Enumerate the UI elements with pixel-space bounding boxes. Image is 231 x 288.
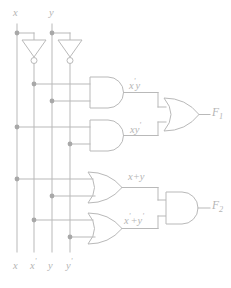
junction-y-to-inverter bbox=[50, 31, 55, 36]
output-f1-sub: 1 bbox=[219, 112, 223, 121]
or-gate-2-body bbox=[88, 213, 122, 244]
or-gate-output-f1 bbox=[164, 98, 210, 131]
rail-label-y-base: y bbox=[48, 260, 53, 271]
and-gate-2-body bbox=[90, 120, 123, 151]
rail-label-x-base: x bbox=[13, 260, 18, 271]
output-label-f2: F2 bbox=[212, 200, 223, 215]
expr-and1-tail: y bbox=[135, 80, 140, 91]
output-label-f1: F1 bbox=[212, 107, 223, 122]
junction-x-and2 bbox=[15, 125, 20, 130]
and-gate-f2-body bbox=[166, 192, 198, 224]
and-gate-1-body bbox=[90, 77, 124, 108]
inverter-x-bubble bbox=[31, 58, 37, 64]
junction-xprime-and1 bbox=[32, 82, 37, 87]
input-rails bbox=[17, 24, 70, 252]
or-gate-1-body bbox=[88, 172, 122, 203]
output-f2-sub: 2 bbox=[219, 205, 223, 214]
junction-y-and1 bbox=[50, 99, 55, 104]
junction-xprime-or2 bbox=[32, 218, 37, 223]
f2-routing-wires bbox=[158, 188, 166, 229]
junction-y-or1 bbox=[50, 194, 55, 199]
junction-yprime-and2 bbox=[68, 142, 73, 147]
inverter-x bbox=[15, 31, 46, 64]
expr-label-or2: x'+y' bbox=[124, 213, 144, 226]
expr-label-or1: x+y bbox=[128, 172, 144, 183]
rail-label-y-prime: y' bbox=[66, 258, 72, 271]
and-gate-output-f2 bbox=[166, 192, 210, 224]
output-f2-base: F bbox=[212, 199, 219, 211]
expr-and2-prime: ' bbox=[139, 121, 141, 130]
rail-label-x-prime: x' bbox=[30, 258, 36, 271]
circuit-canvas bbox=[0, 0, 231, 288]
output-f1-base: F bbox=[212, 106, 219, 118]
or-gate-f1-body bbox=[164, 98, 199, 131]
rail-label-yp-prime: ' bbox=[71, 257, 73, 266]
junction-x-to-inverter bbox=[15, 31, 20, 36]
rail-label-y: y bbox=[48, 258, 53, 271]
rail-label-x: x bbox=[13, 258, 18, 271]
logic-circuit-diagram: x y x x' y y' x'y xy' x+y x'+y' F1 F2 bbox=[0, 0, 231, 288]
input-label-x-top: x bbox=[13, 8, 18, 19]
inverter-x-triangle bbox=[22, 40, 46, 57]
inverter-y-bubble bbox=[67, 58, 73, 64]
junction-yprime-or2 bbox=[68, 235, 73, 240]
junction-x-or1 bbox=[15, 177, 20, 182]
rail-label-xp-prime: ' bbox=[35, 257, 37, 266]
expr-or2-right-prime: ' bbox=[142, 212, 144, 221]
inverter-y bbox=[50, 31, 82, 64]
input-label-y-top: y bbox=[49, 8, 54, 19]
inverter-y-triangle bbox=[58, 40, 82, 57]
expr-or2-plus: + bbox=[130, 215, 137, 226]
expr-label-and2: xy' bbox=[130, 122, 141, 135]
expr-label-and1: x'y bbox=[129, 78, 140, 91]
